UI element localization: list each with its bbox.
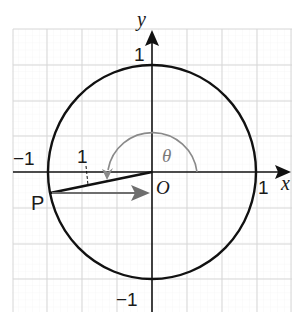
point-P-label: P bbox=[31, 192, 44, 214]
unit-circle-diagram: y x 1 −1 1 −1 O P 1 θ bbox=[0, 0, 292, 312]
x-axis-label: x bbox=[280, 172, 290, 194]
y-tick-negative-label: −1 bbox=[116, 289, 138, 310]
y-tick-positive-label: 1 bbox=[134, 44, 145, 65]
origin-label: O bbox=[156, 177, 170, 198]
x-tick-negative-label: −1 bbox=[13, 148, 35, 169]
y-axis-label: y bbox=[135, 8, 146, 31]
angle-theta-label: θ bbox=[162, 145, 171, 166]
radius-length-label: 1 bbox=[77, 146, 88, 167]
x-tick-positive-label: 1 bbox=[258, 177, 269, 198]
